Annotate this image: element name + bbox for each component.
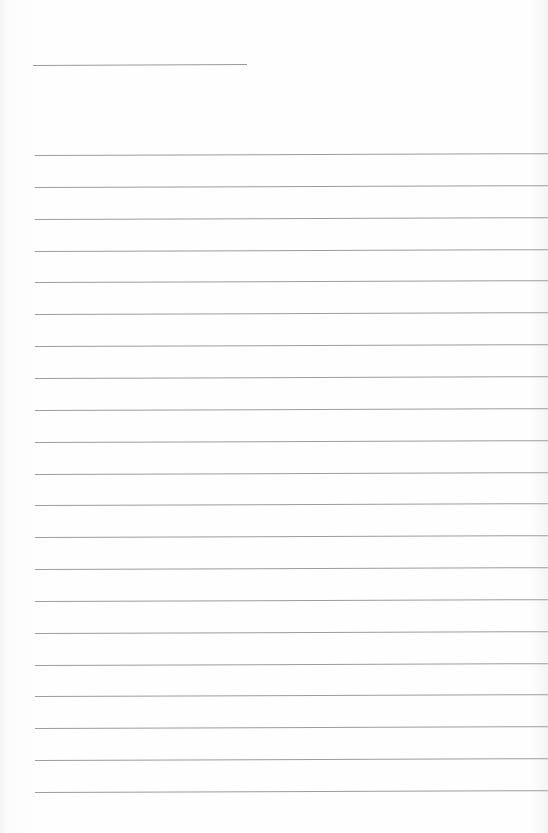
ruled-line bbox=[35, 726, 548, 729]
ruled-line bbox=[35, 599, 548, 602]
ruled-line bbox=[35, 663, 548, 666]
ruled-line bbox=[35, 185, 548, 188]
ruled-line bbox=[35, 249, 548, 252]
ruled-line bbox=[35, 535, 548, 538]
ruled-line bbox=[35, 631, 548, 634]
ruled-line bbox=[35, 280, 548, 283]
ruled-line bbox=[35, 694, 548, 697]
ruled-line bbox=[35, 790, 548, 793]
ruled-line bbox=[35, 503, 548, 506]
ruled-line bbox=[35, 376, 548, 379]
ruled-paper-page bbox=[0, 0, 548, 833]
ruled-line bbox=[35, 567, 548, 570]
ruled-line bbox=[35, 344, 548, 347]
ruled-line bbox=[35, 408, 548, 411]
ruled-line bbox=[35, 472, 548, 475]
ruled-line bbox=[35, 758, 548, 761]
title-underline bbox=[33, 64, 247, 66]
ruled-line bbox=[35, 312, 548, 315]
ruled-line bbox=[35, 217, 548, 220]
ruled-line bbox=[35, 440, 548, 443]
ruled-line bbox=[35, 153, 548, 156]
